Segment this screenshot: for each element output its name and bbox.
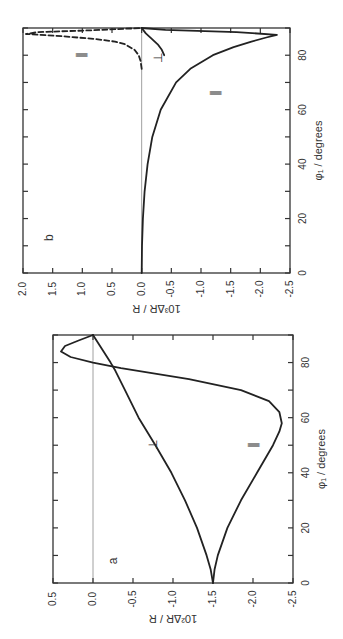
phi-tick-label: 20 xyxy=(300,522,311,534)
data-curve xyxy=(61,335,282,583)
phi-tick-label: 60 xyxy=(300,412,311,424)
value-axis-label: 10²ΔR / R xyxy=(149,613,197,625)
value-tick-label: 0.5 xyxy=(47,592,58,606)
plot-frame xyxy=(53,335,293,583)
figure: 2.01.51.00.50.0-0.5-1.0-1.5-2.0-2.502040… xyxy=(0,0,343,639)
phi-axis-label: φ₁ / degrees xyxy=(315,429,327,489)
data-curve xyxy=(93,335,213,583)
value-tick-label: -1.5 xyxy=(207,590,218,608)
annotation-label: ⊥ xyxy=(146,440,160,450)
phi-tick-label: 80 xyxy=(300,357,311,369)
value-tick-label: 0.0 xyxy=(87,592,98,606)
value-tick-label: -2.5 xyxy=(287,590,298,608)
value-tick-label: -1.0 xyxy=(167,590,178,608)
chart-panel-a: 0.50.0-0.5-1.0-1.5-2.0-2.5020406080φ₁ / … xyxy=(0,0,343,639)
phi-tick-label: 0 xyxy=(300,580,311,586)
annotation-label: a xyxy=(106,557,120,564)
annotation-label: ∥ xyxy=(246,442,260,448)
value-tick-label: -2.0 xyxy=(247,590,258,608)
value-tick-label: -0.5 xyxy=(127,590,138,608)
phi-tick-label: 40 xyxy=(300,467,311,479)
